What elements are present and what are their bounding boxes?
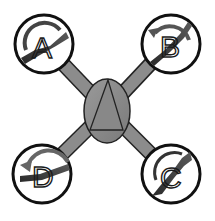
rotor-a: A bbox=[15, 15, 73, 73]
rotor-label-a: A bbox=[32, 31, 52, 64]
rotor-b: B bbox=[142, 15, 200, 73]
rotor-label-c: C bbox=[160, 161, 182, 194]
rotor-label-b: B bbox=[160, 30, 180, 63]
rotor-c: C bbox=[142, 145, 200, 203]
rotor-d: D bbox=[13, 145, 71, 203]
quadcopter-diagram: A B D C bbox=[0, 0, 215, 221]
center-body bbox=[84, 79, 130, 143]
rotor-label-d: D bbox=[32, 160, 54, 193]
